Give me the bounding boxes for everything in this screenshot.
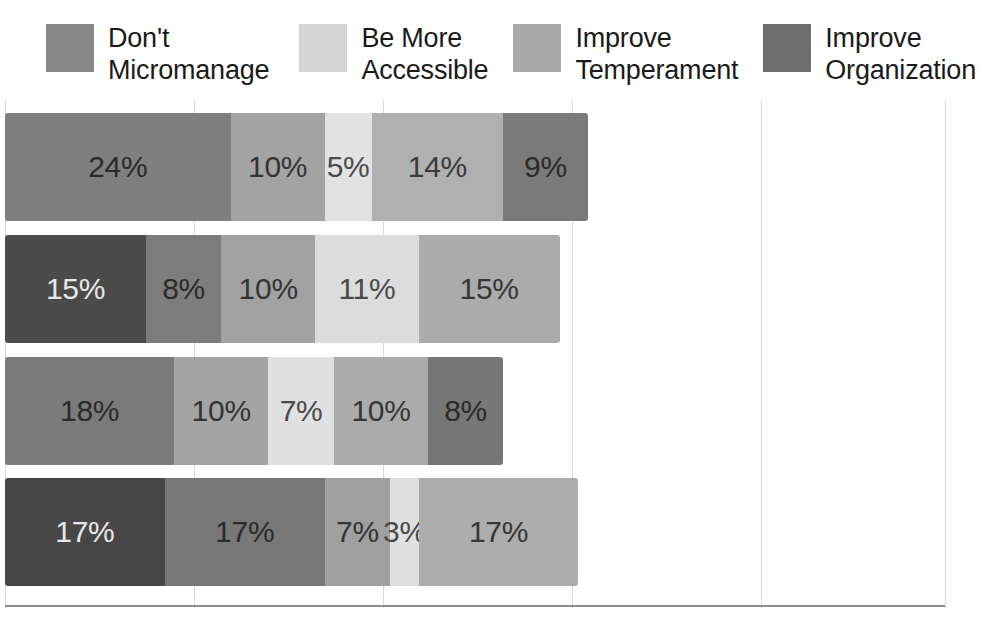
bar-segment-label: 10%	[351, 394, 410, 428]
bar-row: 15%8%10%11%15%	[5, 235, 560, 343]
legend-item-be-more-accessible[interactable]: Be More Accessible	[299, 22, 488, 86]
legend-label-dont-micromanage: Don't Micromanage	[108, 22, 269, 86]
bar-segment-label: 7%	[336, 515, 379, 549]
bar-segment-label: 5%	[327, 150, 370, 184]
bar-segment-label: 14%	[408, 150, 467, 184]
plot-area: 24%10%5%14%9%15%8%10%11%15%18%10%7%10%8%…	[0, 100, 1005, 635]
bar-rows-container: 24%10%5%14%9%15%8%10%11%15%18%10%7%10%8%…	[0, 100, 1005, 608]
bar-segment[interactable]: 7%	[268, 357, 334, 465]
bar-segment-label: 10%	[239, 272, 298, 306]
bar-segment[interactable]: 8%	[146, 235, 221, 343]
legend-label-improve-organization: Improve Organization	[825, 22, 976, 86]
legend-item-dont-micromanage[interactable]: Don't Micromanage	[46, 22, 269, 86]
bar-segment-label: 15%	[460, 272, 519, 306]
bar-segment[interactable]: 10%	[221, 235, 315, 343]
bar-segment[interactable]: 10%	[231, 113, 325, 221]
bar-segment-label: 17%	[55, 515, 114, 549]
bar-segment-label: 17%	[215, 515, 274, 549]
bar-segment-label: 9%	[524, 150, 567, 184]
bar-row: 24%10%5%14%9%	[5, 113, 588, 221]
bar-segment-label: 11%	[338, 272, 395, 306]
bar-segment[interactable]: 10%	[334, 357, 428, 465]
bar-segment[interactable]: 11%	[315, 235, 418, 343]
legend-item-improve-organization[interactable]: Improve Organization	[763, 22, 976, 86]
bar-segment-label: 8%	[162, 272, 205, 306]
bar-segment[interactable]: 17%	[419, 478, 579, 586]
bar-segment[interactable]: 3%	[390, 478, 418, 586]
legend-item-improve-temperament[interactable]: Improve Temperament	[513, 22, 738, 86]
bar-segment-label: 7%	[280, 394, 323, 428]
bar-segment[interactable]: 7%	[325, 478, 391, 586]
bar-segment-label: 8%	[444, 394, 487, 428]
bar-segment[interactable]: 15%	[5, 235, 146, 343]
bar-segment[interactable]: 5%	[325, 113, 372, 221]
bar-row: 18%10%7%10%8%	[5, 357, 503, 465]
bar-segment[interactable]: 14%	[372, 113, 504, 221]
bar-row: 17%17%7%3%17%	[5, 478, 578, 586]
legend-swatch-improve-organization	[763, 24, 811, 72]
bar-segment[interactable]: 10%	[174, 357, 268, 465]
bar-segment-label: 18%	[60, 394, 119, 428]
bar-segment-label: 17%	[469, 515, 528, 549]
bar-segment[interactable]: 9%	[503, 113, 588, 221]
legend-label-be-more-accessible: Be More Accessible	[361, 22, 488, 86]
stacked-bar-chart: Don't MicromanageBe More AccessibleImpro…	[0, 0, 1005, 635]
legend-swatch-improve-temperament	[513, 24, 561, 72]
bar-segment[interactable]: 17%	[5, 478, 165, 586]
bar-segment[interactable]: 17%	[165, 478, 325, 586]
bar-segment-label: 10%	[248, 150, 307, 184]
legend-swatch-be-more-accessible	[299, 24, 347, 72]
bar-segment-label: 15%	[46, 272, 105, 306]
bar-segment[interactable]: 18%	[5, 357, 174, 465]
bar-segment[interactable]: 15%	[419, 235, 560, 343]
bar-segment[interactable]: 24%	[5, 113, 231, 221]
bar-segment-label: 24%	[88, 150, 147, 184]
bar-segment-label: 10%	[192, 394, 251, 428]
legend-swatch-dont-micromanage	[46, 24, 94, 72]
legend-label-improve-temperament: Improve Temperament	[575, 22, 738, 86]
bar-segment[interactable]: 8%	[428, 357, 503, 465]
chart-legend: Don't MicromanageBe More AccessibleImpro…	[0, 0, 1005, 100]
